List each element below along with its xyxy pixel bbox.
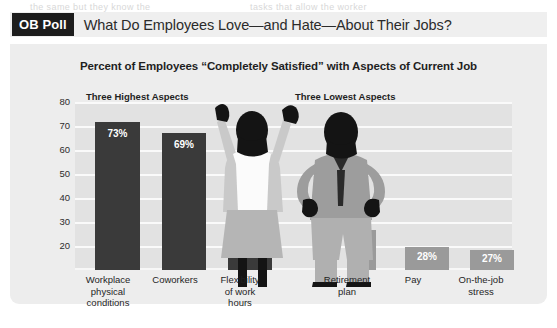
- x-label-pay: Pay: [378, 274, 448, 286]
- bar-value-label: 69%: [162, 139, 206, 150]
- bar-value-label: 34%: [347, 236, 376, 247]
- x-label-coworkers: Coworkers: [138, 274, 212, 286]
- gridline: [75, 174, 512, 176]
- group-label-highest: Three Highest Aspects: [86, 91, 189, 102]
- group-label-lowest: Three Lowest Aspects: [295, 91, 395, 102]
- poll-header: OB Poll What Do Employees Love—and Hate—…: [10, 12, 547, 37]
- bleed-text: the same but they know the: [30, 2, 150, 12]
- y-tick-label: 80: [44, 96, 70, 107]
- y-axis: 80 70 60 50 40 30 20: [40, 102, 70, 270]
- bar-value-label: 28%: [405, 251, 449, 262]
- bar-value-label: 73%: [95, 128, 140, 139]
- gridline: [75, 126, 512, 128]
- bar-value-label: 27%: [470, 253, 514, 264]
- bar-flexibility-of-work-hours: 61%: [228, 155, 272, 270]
- gridline: [75, 102, 512, 104]
- bar-retirement-plan: 34%: [347, 230, 376, 270]
- y-tick-label: 20: [44, 240, 70, 251]
- bar-on-the-job-stress: 27%: [470, 250, 514, 270]
- gridline: [75, 222, 512, 224]
- x-label-retirement-plan: Retirement plan: [310, 274, 384, 297]
- y-tick-label: 40: [44, 192, 70, 203]
- y-tick-label: 70: [44, 120, 70, 131]
- bar-workplace-physical-conditions: 73%: [95, 122, 140, 270]
- plot-area: 73% 69% 61% 34% 28% 27%: [75, 102, 512, 270]
- y-tick-label: 60: [44, 144, 70, 155]
- gridline: [75, 150, 512, 152]
- x-label-on-the-job-stress: On-the-job stress: [442, 274, 520, 297]
- bleed-text: tasks that allow the worker: [250, 2, 367, 12]
- bar-pay: 28%: [405, 247, 449, 270]
- chart-panel: Percent of Employees “Completely Satisfi…: [10, 44, 547, 304]
- y-tick-label: 50: [44, 168, 70, 179]
- page-title: What Do Employees Love—and Hate—About Th…: [84, 17, 452, 33]
- ob-poll-badge: OB Poll: [12, 13, 74, 36]
- gridline: [75, 198, 512, 200]
- x-label-flexibility-of-work-hours: Flexibility of work hours: [202, 274, 278, 309]
- bar-coworkers: 69%: [162, 133, 206, 270]
- poll-infographic: the same but they know the tasks that al…: [0, 0, 557, 328]
- chart-title: Percent of Employees “Completely Satisfi…: [10, 60, 547, 72]
- x-label-workplace-physical-conditions: Workplace physical conditions: [70, 274, 146, 309]
- bar-value-label: 61%: [228, 161, 272, 172]
- y-tick-label: 30: [44, 216, 70, 227]
